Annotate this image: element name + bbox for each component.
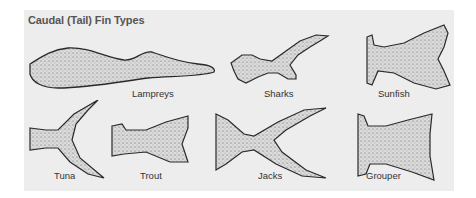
tuna-label: Tuna (54, 170, 75, 181)
tuna-fin-illustration (28, 100, 106, 180)
diagram-title: Caudal (Tail) Fin Types (28, 14, 144, 26)
trout-label: Trout (140, 170, 162, 181)
trout-fin-illustration (110, 114, 192, 166)
shark-fin-illustration (230, 33, 330, 89)
sharks-label: Sharks (264, 88, 294, 99)
lamprey-fin-illustration (28, 44, 218, 90)
sunfish-label: Sunfish (378, 88, 410, 99)
jacks-label: Jacks (258, 170, 282, 181)
sunfish-fin-illustration (364, 23, 454, 93)
lampreys-label: Lampreys (132, 88, 174, 99)
jacks-fin-illustration (214, 106, 330, 180)
grouper-label: Grouper (366, 170, 401, 181)
